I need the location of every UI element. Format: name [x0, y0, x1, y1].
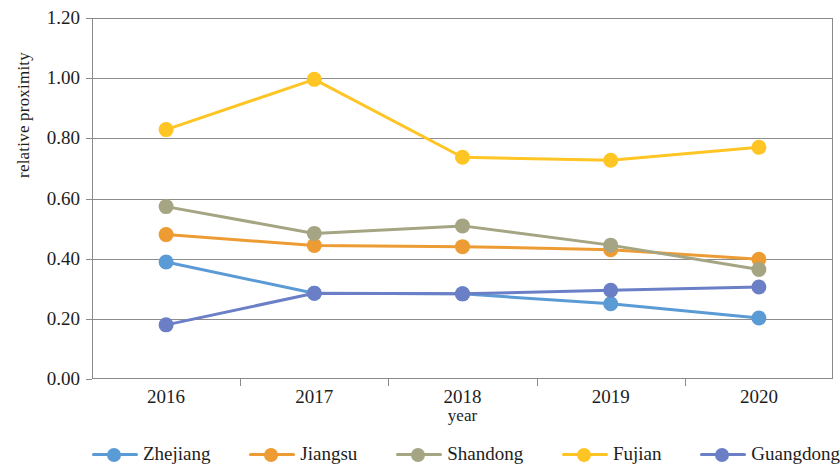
y-axis-tick-label: 1.20: [8, 8, 80, 27]
y-axis-tick-label: 0.80: [8, 128, 80, 147]
x-axis-tick-label: 2018: [403, 386, 523, 408]
y-axis-tick-label: 1.00: [8, 68, 80, 87]
data-point: [751, 262, 766, 277]
data-point: [603, 153, 618, 168]
legend-marker-icon: [92, 446, 138, 462]
legend-dot: [107, 448, 121, 462]
legend-dot: [411, 448, 425, 462]
legend-label: Jiangsu: [300, 444, 357, 464]
chart-legend: ZhejiangJiangsuShandongFujianGuangdong: [92, 440, 840, 468]
data-point: [455, 218, 470, 233]
y-axis-tick-label: 0.60: [8, 189, 80, 208]
legend-item-guangdong[interactable]: Guangdong: [700, 444, 840, 464]
x-axis-title: year: [92, 406, 833, 426]
data-point: [159, 199, 174, 214]
data-point: [307, 286, 322, 301]
series-guangdong: [159, 279, 767, 332]
series-shandong: [159, 199, 767, 277]
data-point: [159, 317, 174, 332]
x-axis-tick-mark: [388, 379, 389, 386]
x-axis-tick-label: 2017: [254, 386, 374, 408]
legend-dot: [577, 448, 591, 462]
y-axis-tick-label: 0.00: [8, 369, 80, 388]
data-point: [751, 279, 766, 294]
legend-marker-icon: [562, 446, 608, 462]
legend-dot: [264, 448, 278, 462]
y-axis-tick-group: 0.000.200.400.600.801.001.20: [0, 18, 80, 379]
data-point: [751, 310, 766, 325]
legend-item-zhejiang[interactable]: Zhejiang: [92, 444, 211, 464]
data-point: [603, 238, 618, 253]
x-axis-tick-label: 2019: [551, 386, 671, 408]
legend-item-fujian[interactable]: Fujian: [562, 444, 662, 464]
x-axis-tick-mark: [685, 379, 686, 386]
data-point: [751, 140, 766, 155]
x-axis-tick-mark: [240, 379, 241, 386]
legend-marker-icon: [249, 446, 295, 462]
legend-label: Zhejiang: [143, 444, 211, 464]
series-line: [166, 207, 759, 270]
data-point: [159, 122, 174, 137]
x-axis-tick-label: 2016: [106, 386, 226, 408]
legend-item-shandong[interactable]: Shandong: [396, 444, 523, 464]
y-axis-tick-label: 0.40: [8, 249, 80, 268]
series-fujian: [159, 72, 767, 168]
legend-item-jiangsu[interactable]: Jiangsu: [249, 444, 357, 464]
data-point: [159, 254, 174, 269]
plot-area: [92, 18, 833, 379]
legend-label: Shandong: [447, 444, 523, 464]
data-point: [307, 226, 322, 241]
legend-marker-icon: [396, 446, 442, 462]
y-axis-tick-label: 0.20: [8, 309, 80, 328]
data-point: [455, 239, 470, 254]
x-axis-tick-label: 2020: [699, 386, 819, 408]
data-point: [455, 150, 470, 165]
data-point: [603, 296, 618, 311]
data-point: [603, 283, 618, 298]
x-axis-tick-mark: [537, 379, 538, 386]
legend-label: Guangdong: [751, 444, 840, 464]
data-point: [455, 286, 470, 301]
line-chart: relative proximity 0.000.200.400.600.801…: [0, 0, 840, 472]
legend-label: Fujian: [613, 444, 662, 464]
series-line: [166, 79, 759, 160]
data-point: [307, 72, 322, 87]
legend-marker-icon: [700, 446, 746, 462]
data-point: [159, 227, 174, 242]
series-layer: [92, 18, 833, 379]
legend-dot: [715, 448, 729, 462]
